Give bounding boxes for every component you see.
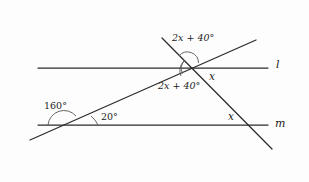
transversal-descending bbox=[162, 38, 272, 149]
angle-label-x-at-line-m: x bbox=[228, 111, 234, 122]
angle-label-160: 160° bbox=[44, 101, 67, 111]
angle-label-20: 20° bbox=[101, 112, 118, 122]
geometry-figure: 2x + 40° 2x + 40° x 160° 20° x l m bbox=[0, 0, 309, 182]
angle-arc-160 bbox=[48, 111, 76, 125]
line-label-m: m bbox=[275, 118, 285, 129]
angle-label-below-line-l: 2x + 40° bbox=[158, 81, 200, 91]
line-label-l: l bbox=[276, 59, 280, 70]
angle-arc-20 bbox=[91, 116, 98, 125]
geometry-canvas bbox=[0, 0, 309, 182]
angle-label-x-at-line-l: x bbox=[209, 71, 215, 82]
angle-label-top: 2x + 40° bbox=[172, 33, 214, 43]
